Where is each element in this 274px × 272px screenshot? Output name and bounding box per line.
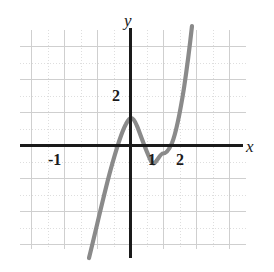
cubic-curve bbox=[89, 26, 192, 258]
y-tick-label-2: 2 bbox=[112, 88, 120, 104]
x-tick-label-1: 1 bbox=[148, 152, 156, 168]
x-tick-label-2: 2 bbox=[176, 152, 184, 168]
graph-figure: y x 2 -1 1 2 bbox=[0, 0, 274, 272]
grid-lines-dotted bbox=[20, 30, 246, 249]
x-tick-label-negative-1: -1 bbox=[48, 152, 61, 168]
y-axis-label: y bbox=[124, 12, 132, 29]
coordinate-plane bbox=[0, 0, 274, 272]
x-axis-label: x bbox=[246, 138, 254, 155]
